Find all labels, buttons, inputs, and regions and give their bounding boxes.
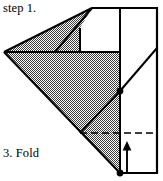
origami-diagram-figure: step 1. 3. Fold from below upward and op… <box>0 0 163 181</box>
instruction-line-1: 3. Fold <box>3 146 78 160</box>
vertex-dot-lower <box>117 170 124 177</box>
vertex-dot-upper <box>117 88 124 95</box>
fold-instruction-text: 3. Fold from below upward and open up ag… <box>3 118 78 181</box>
step-label-text: step 1. <box>3 1 36 15</box>
